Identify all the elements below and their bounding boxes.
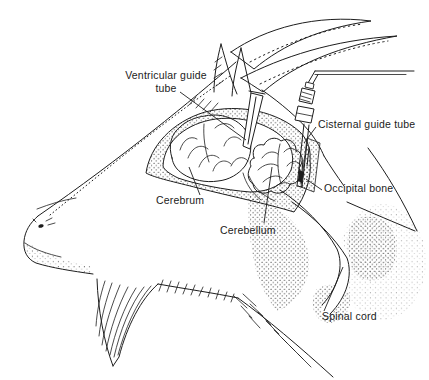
muzzle-shading	[24, 241, 92, 274]
label-occipital-bone: Occipital bone	[324, 182, 393, 195]
eye	[33, 218, 55, 228]
throat-and-chest	[158, 280, 333, 377]
label-spinal-cord: Spinal cord	[322, 310, 377, 323]
goat-brain-diagram: Ventricular guide tube Cisternal guide t…	[0, 0, 429, 380]
leader-cerebrum	[189, 167, 200, 195]
label-ventricular-guide-tube: Ventricular guide tube	[118, 69, 214, 94]
label-cerebellum: Cerebellum	[220, 224, 276, 237]
label-cerebrum: Cerebrum	[156, 194, 204, 207]
beard	[96, 279, 158, 366]
cerebrum-graphic	[170, 115, 251, 182]
label-cisternal-guide-tube: Cisternal guide tube	[318, 118, 415, 131]
